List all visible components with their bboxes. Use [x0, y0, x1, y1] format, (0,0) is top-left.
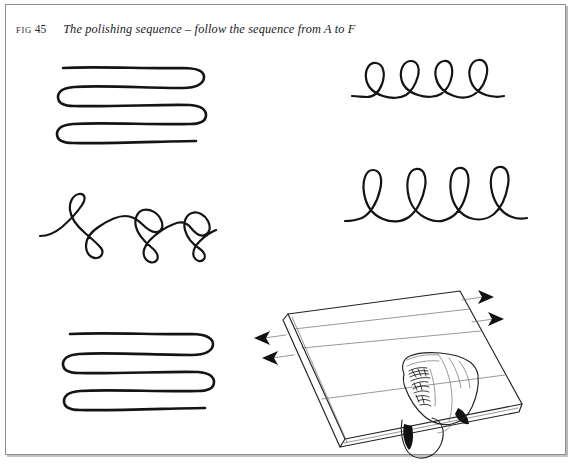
figure-number-label: FIG 45 — [16, 25, 46, 35]
plate-shadow-right — [566, 6, 568, 457]
plate-shadow-bottom — [7, 455, 568, 457]
figure-page: FIG 45The polishing sequence – follow th… — [0, 0, 577, 466]
figure-number-prefix: FIG — [16, 25, 32, 35]
figure-caption-text: The polishing sequence – follow the sequ… — [63, 22, 355, 36]
plate-frame-border — [5, 4, 566, 455]
figure-number-value: 45 — [35, 23, 47, 35]
figure-caption: FIG 45The polishing sequence – follow th… — [16, 19, 355, 37]
